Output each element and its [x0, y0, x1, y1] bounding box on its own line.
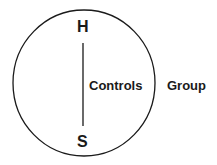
label-group: Group: [167, 79, 206, 92]
label-s: S: [77, 134, 88, 150]
label-controls: Controls: [89, 79, 142, 92]
label-h: H: [77, 19, 89, 35]
